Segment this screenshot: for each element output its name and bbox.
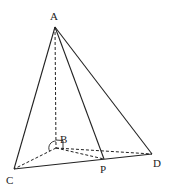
edge-BD — [56, 148, 152, 154]
edge-CD — [14, 154, 152, 169]
edge-AB — [55, 27, 56, 148]
edge-AD — [55, 27, 152, 154]
label-B: B — [60, 133, 67, 145]
right-angle-mark-ABC — [49, 141, 56, 151]
label-C: C — [6, 174, 13, 186]
label-P: P — [100, 163, 106, 175]
label-D: D — [153, 157, 161, 169]
tetrahedron-diagram: A B C P D — [0, 0, 173, 192]
edge-BP — [56, 148, 104, 159]
label-A: A — [50, 10, 58, 22]
edge-BC — [14, 148, 56, 169]
